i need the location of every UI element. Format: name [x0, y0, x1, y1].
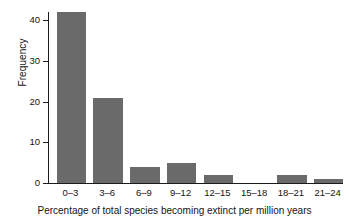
- y-axis-title: Frequency: [17, 3, 28, 123]
- bar: [130, 167, 159, 183]
- x-axis-title: Percentage of total species becoming ext…: [0, 204, 349, 217]
- y-axis-tick: 20: [43, 102, 48, 103]
- x-axis-tick-label: 9–12: [162, 187, 199, 199]
- x-axis-tick-label: 21–24: [309, 187, 346, 199]
- y-axis-tick-label: 20: [29, 96, 40, 107]
- bar: [204, 175, 233, 183]
- bar: [314, 179, 343, 183]
- y-axis-tick: 10: [43, 142, 48, 143]
- histogram-figure: Frequency 010203040 0–33–66–99–1212–1515…: [0, 0, 349, 222]
- y-axis-tick-label: 0: [35, 177, 40, 188]
- y-axis-tick: 0: [43, 183, 48, 184]
- x-axis-tick-label: 3–6: [89, 187, 126, 199]
- bar: [93, 98, 122, 184]
- bar: [167, 163, 196, 183]
- x-axis-tick-label: 0–3: [52, 187, 89, 199]
- y-axis-tick-label: 30: [29, 55, 40, 66]
- y-axis-tick-label: 40: [29, 14, 40, 25]
- plot-area: 010203040: [48, 6, 343, 184]
- x-axis-tick-label: 15–18: [236, 187, 273, 199]
- x-axis-tick-label: 12–15: [199, 187, 236, 199]
- x-axis-line: [48, 183, 343, 184]
- x-axis-tick-label: 18–21: [273, 187, 310, 199]
- bar: [277, 175, 306, 183]
- bar: [57, 12, 86, 183]
- y-axis-tick: 30: [43, 61, 48, 62]
- bars-layer: [49, 6, 343, 183]
- x-axis-tick-label: 6–9: [126, 187, 163, 199]
- y-axis-tick-label: 10: [29, 136, 40, 147]
- y-axis-tick: 40: [43, 20, 48, 21]
- x-axis-tick-labels: 0–33–66–99–1212–1515–1818–2121–24: [48, 187, 343, 201]
